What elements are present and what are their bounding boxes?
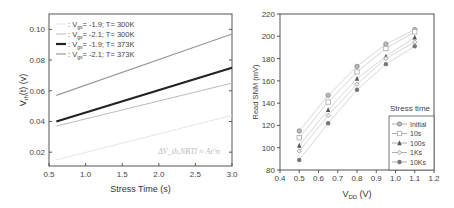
series-line (56, 68, 232, 122)
y-tick-label: 0.08 (29, 56, 45, 65)
formula-annotation: ΔV_th,NBTI ≈ At^n (157, 147, 220, 156)
y-axis-label: Read SNM (mV) (251, 64, 260, 120)
x-tick-label: 1.5 (117, 170, 129, 179)
y-tick-label: 220 (262, 10, 276, 19)
y-tick-label: 0.02 (29, 148, 45, 157)
legend-title: Stress time (390, 104, 431, 113)
x-tick-label: 0.7 (332, 174, 344, 183)
x-tick-label: 1.0 (390, 174, 402, 183)
legend-label: 10s (410, 130, 422, 137)
x-tick-label: 2.5 (190, 170, 202, 179)
legend-label: : Vgs= -2.1; T= 300K (68, 30, 134, 40)
x-tick-label: 0.9 (371, 174, 383, 183)
x-tick-label: 2.0 (153, 170, 165, 179)
x-tick-label: 0.4 (274, 174, 286, 183)
y-tick-label: 180 (262, 55, 276, 64)
figure: 0.51.01.52.02.53.00.020.040.060.080.10St… (0, 0, 454, 208)
x-axis-label: VDD (V) (342, 189, 371, 200)
legend-label: Initial (410, 121, 427, 128)
y-tick-label: 80 (266, 166, 275, 175)
x-tick-label: 0.5 (294, 174, 306, 183)
x-tick-label: 0.6 (313, 174, 325, 183)
x-tick-label: 0.8 (351, 174, 363, 183)
y-tick-label: 0.06 (29, 87, 45, 96)
y-tick-label: 140 (262, 99, 276, 108)
legend-label: 100s (410, 140, 426, 147)
x-tick-label: 3.0 (226, 170, 238, 179)
right-chart: 0.40.50.60.70.80.91.01.11.28010012014016… (251, 10, 440, 200)
legend-label: : Vgs= -1.9; T= 300K (68, 20, 134, 30)
left-chart: 0.51.01.52.02.53.00.020.040.060.080.10St… (18, 14, 238, 194)
x-tick-label: 0.5 (43, 170, 55, 179)
y-tick-label: 160 (262, 77, 276, 86)
x-tick-label: 1.1 (409, 174, 421, 183)
legend-label: 1Ks (410, 149, 423, 156)
x-tick-label: 1.0 (80, 170, 92, 179)
y-tick-label: 100 (262, 144, 276, 153)
legend: Stress timeInitial10s100s1Ks10Ks (389, 104, 434, 170)
legend-label: 10Ks (410, 159, 426, 166)
x-tick-label: 1.2 (428, 174, 440, 183)
y-axis-label: Vth(t) (v) (18, 74, 29, 107)
y-tick-label: 120 (262, 121, 276, 130)
y-tick-label: 0.04 (29, 117, 45, 126)
y-tick-label: 0.10 (29, 25, 45, 34)
x-axis-label: Stress Time (s) (110, 184, 171, 194)
series-line (56, 83, 232, 126)
legend-label: : Vgs= -1.9; T= 373K (68, 40, 134, 50)
y-tick-label: 200 (262, 32, 276, 41)
legend-label: : Vgs= -2.1; T= 373K (68, 50, 134, 60)
